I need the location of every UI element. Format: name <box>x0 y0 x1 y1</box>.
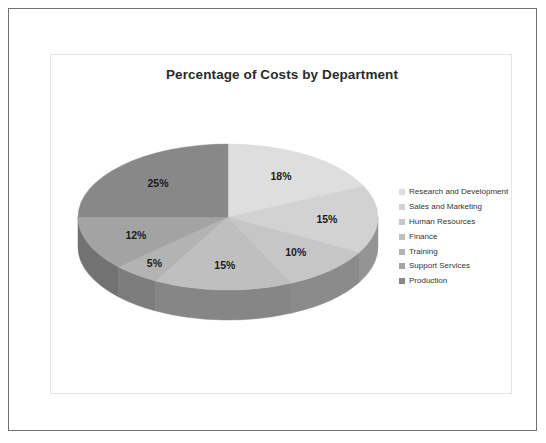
legend-label: Support Services <box>409 262 470 270</box>
legend-label: Research and Development <box>409 188 508 196</box>
legend-item-support-services[interactable]: Support Services <box>399 259 517 274</box>
document-outer-border: Percentage of Costs by Department 18%15%… <box>8 8 537 431</box>
legend-item-research-and-development[interactable]: Research and Development <box>399 185 517 200</box>
legend-item-production[interactable]: Production <box>399 274 517 289</box>
legend-swatch-production <box>399 278 405 284</box>
legend-swatch-support-services <box>399 263 405 269</box>
legend-swatch-research-and-development <box>399 189 405 195</box>
pie-chart-area: 18%15%10%15%5%12%25% <box>51 55 401 395</box>
legend-label: Production <box>409 277 447 285</box>
legend-label: Sales and Marketing <box>409 203 482 211</box>
legend-item-training[interactable]: Training <box>399 244 517 259</box>
pie-slice-percent-label: 25% <box>147 177 168 189</box>
legend-item-finance[interactable]: Finance <box>399 229 517 244</box>
pie-chart-svg <box>51 55 401 395</box>
legend-swatch-sales-and-marketing <box>399 204 405 210</box>
legend-label: Human Resources <box>409 218 475 226</box>
legend-label: Training <box>409 248 438 256</box>
pie-slice-percent-label: 12% <box>125 229 146 241</box>
legend-swatch-finance <box>399 234 405 240</box>
pie-slice-percent-label: 18% <box>271 170 292 182</box>
pie-slice-percent-label: 10% <box>285 246 306 258</box>
chart-frame: Percentage of Costs by Department 18%15%… <box>50 54 512 394</box>
page-root: Percentage of Costs by Department 18%15%… <box>0 0 546 443</box>
chart-legend: Research and Development Sales and Marke… <box>399 185 517 289</box>
legend-swatch-training <box>399 249 405 255</box>
legend-item-sales-and-marketing[interactable]: Sales and Marketing <box>399 200 517 215</box>
legend-item-human-resources[interactable]: Human Resources <box>399 215 517 230</box>
legend-label: Finance <box>409 233 437 241</box>
legend-swatch-human-resources <box>399 219 405 225</box>
pie-slice-percent-label: 15% <box>214 259 235 271</box>
pie-slice-percent-label: 5% <box>147 257 162 269</box>
pie-slice-percent-label: 15% <box>316 213 337 225</box>
